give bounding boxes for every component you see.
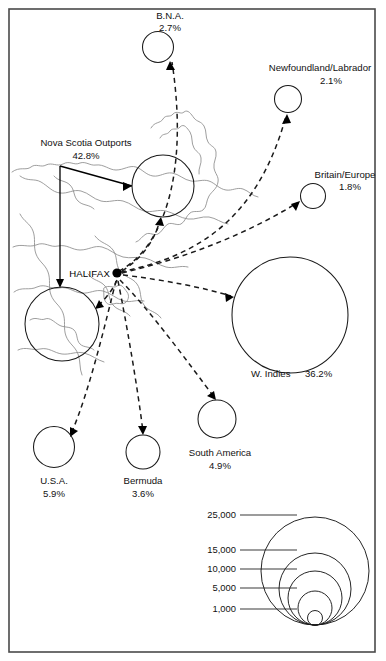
label-bermuda-name: Bermuda — [124, 475, 164, 486]
label-britain-europe-name: Britain/Europe — [315, 169, 376, 180]
map-svg: HALIFAX B.N.A. 2.7% Newfoundland/Labrado… — [0, 0, 386, 661]
bubble-bermuda[interactable] — [126, 435, 160, 469]
label-bna-name: B.N.A. — [156, 10, 184, 21]
legend-label-10000: 10,000 — [207, 563, 236, 574]
bubbles-group — [25, 32, 348, 470]
label-nova-scotia-outports-percent: 42.8% — [72, 150, 100, 161]
flow-to-bna — [119, 62, 177, 271]
scale-legend: 25,000 15,000 10,000 5,000 1,000 — [207, 509, 369, 626]
bubble-nova-scotia-outports-south[interactable] — [25, 287, 99, 361]
halifax-dot — [112, 268, 121, 277]
coastline-south-shore — [18, 348, 104, 362]
coastline-cape-breton-detail — [160, 126, 201, 174]
arrowhead-newfoundland — [282, 114, 291, 124]
coastline-northern-mainland — [12, 163, 258, 197]
bubble-newfoundland-labrador[interactable] — [275, 86, 302, 113]
label-south-america-name: South America — [189, 447, 252, 458]
label-south-america-percent: 4.9% — [209, 460, 231, 471]
coastline-ns-peninsula-north — [13, 244, 188, 268]
label-britain-europe-percent: 1.8% — [339, 181, 361, 192]
legend-label-15000: 15,000 — [207, 544, 236, 555]
label-usa-name: U.S.A. — [40, 475, 68, 486]
coastline-group — [12, 111, 258, 375]
legend-label-1000: 1,000 — [213, 603, 236, 614]
legend-circle-5000 — [298, 591, 332, 625]
flow-arrows-group — [70, 61, 300, 437]
flow-to-south-america — [120, 280, 214, 397]
legend-circle-10000 — [288, 571, 342, 625]
flow-to-west-indies — [123, 275, 231, 296]
bubble-britain-europe[interactable] — [301, 184, 326, 209]
label-bermuda-percent: 3.6% — [132, 488, 154, 499]
label-newfoundland-labrador-percent: 2.1% — [320, 75, 342, 86]
arrowhead-south-america — [207, 391, 216, 400]
coastline-ns-body-west — [20, 214, 82, 375]
bubble-south-america[interactable] — [198, 400, 236, 438]
legend-label-25000: 25,000 — [207, 509, 236, 520]
label-west-indies-percent: 36.2% — [305, 368, 333, 379]
outports-arrowhead-north — [123, 182, 132, 191]
arrowhead-bna — [166, 61, 175, 70]
arrowhead-ns-outports-upper — [155, 217, 164, 226]
label-bna-percent: 2.7% — [159, 22, 181, 33]
figure-canvas: HALIFAX B.N.A. 2.7% Newfoundland/Labrado… — [0, 0, 386, 661]
halifax-label: HALIFAX — [69, 268, 110, 279]
coastline-harbour-detail — [30, 318, 94, 350]
coastline-island-small-a — [104, 285, 128, 305]
bubble-usa[interactable] — [34, 427, 75, 468]
bubble-bna[interactable] — [143, 32, 174, 63]
legend-circle-1000 — [308, 611, 323, 626]
label-newfoundland-labrador-name: Newfoundland/Labrador — [269, 62, 372, 73]
node-labels-group: B.N.A. 2.7% Newfoundland/Labrador 2.1% B… — [40, 10, 375, 499]
flow-to-ns-outports-upper — [122, 220, 160, 271]
bubble-west-indies[interactable] — [232, 257, 348, 373]
figure-frame — [9, 9, 375, 652]
label-usa-percent: 5.9% — [43, 488, 65, 499]
arrowhead-bermuda — [138, 426, 147, 435]
legend-label-5000: 5,000 — [213, 582, 236, 593]
bubble-nova-scotia-outports-north[interactable] — [132, 155, 194, 217]
label-nova-scotia-outports-name: Nova Scotia Outports — [40, 137, 131, 148]
coastline-cape-breton — [136, 111, 218, 242]
label-west-indies-name: W. Indies — [251, 368, 291, 379]
halifax-origin[interactable]: HALIFAX — [69, 268, 121, 279]
arrowhead-ns-outports-lower — [95, 300, 104, 309]
arrowhead-west-indies — [225, 293, 234, 302]
